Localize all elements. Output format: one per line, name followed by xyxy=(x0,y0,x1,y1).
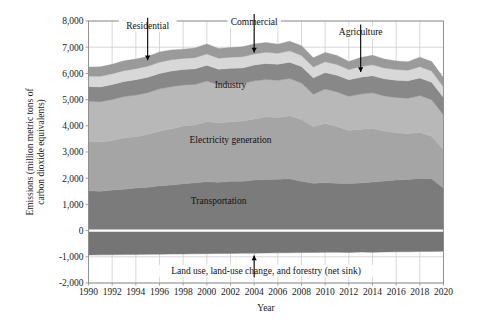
area-series-land-use-net-sink xyxy=(89,231,444,255)
y-tick-label: 1,000 xyxy=(62,200,84,210)
y-tick-label: 2,000 xyxy=(62,174,84,184)
y-axis-title-line-1: Emissions (million metric tons of xyxy=(25,88,36,216)
x-tick-label: 2020 xyxy=(434,287,453,297)
y-tick-label: 3,000 xyxy=(62,147,84,157)
inline-series-label: Industry xyxy=(215,80,247,90)
y-tick-label: 6,000 xyxy=(62,69,84,79)
x-tick-label: 2016 xyxy=(387,287,406,297)
x-tick-label: 1996 xyxy=(150,287,169,297)
x-tick-label: 1998 xyxy=(174,287,193,297)
x-tick-label: 2014 xyxy=(363,287,382,297)
inline-series-label: Transportation xyxy=(191,196,247,206)
x-tick-label: 2006 xyxy=(268,287,287,297)
emissions-stacked-area-chart: 8,0007,0006,0005,0004,0003,0002,0001,000… xyxy=(0,0,480,332)
x-tick-label: 2018 xyxy=(410,287,429,297)
y-tick-label: 8,000 xyxy=(62,16,84,26)
x-tick-label: 2012 xyxy=(339,287,358,297)
inline-series-label: Electricity generation xyxy=(189,135,271,145)
x-tick-label: 1994 xyxy=(126,287,145,297)
y-axis-tick-labels: 8,0007,0006,0005,0004,0003,0002,0001,000… xyxy=(59,16,89,288)
y-tick-label: -1,000 xyxy=(59,252,84,262)
x-tick-label: 2000 xyxy=(197,287,216,297)
x-axis-title: Year xyxy=(257,303,275,313)
y-tick-label: 5,000 xyxy=(62,95,84,105)
callout-label: Land use, land-use change, and forestry … xyxy=(171,266,361,277)
x-tick-label: 2008 xyxy=(292,287,311,297)
x-tick-label: 1992 xyxy=(103,287,122,297)
x-tick-label: 2002 xyxy=(221,287,240,297)
x-tick-label: 2010 xyxy=(316,287,335,297)
x-tick-label: 2004 xyxy=(245,287,264,297)
y-axis-title-line-2: carbon dioxide equivalents) xyxy=(36,99,47,205)
x-axis-tick-labels: 1990199219941996199820002002200420062008… xyxy=(79,283,453,297)
y-tick-label: 0 xyxy=(79,226,84,236)
negative-area-series xyxy=(89,231,444,255)
y-tick-label: 4,000 xyxy=(62,121,84,131)
x-tick-label: 1990 xyxy=(79,287,98,297)
chart-canvas: 8,0007,0006,0005,0004,0003,0002,0001,000… xyxy=(0,0,480,332)
y-tick-label: 7,000 xyxy=(62,43,84,53)
